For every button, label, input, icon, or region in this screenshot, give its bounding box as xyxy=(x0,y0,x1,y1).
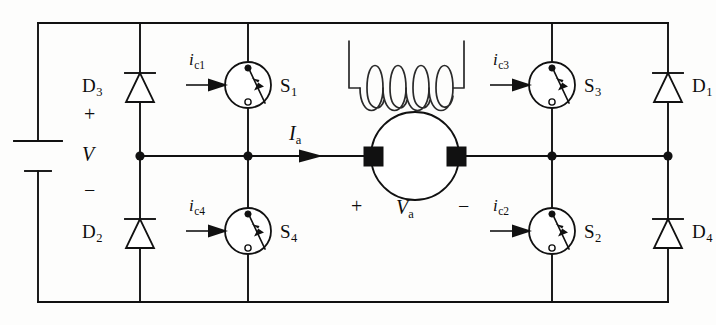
control-current-ic1-label: ic1 xyxy=(189,51,205,68)
armature-voltage-sub: a xyxy=(408,207,414,221)
diode-D2-label: D2 xyxy=(82,222,102,241)
armature-current-label: Ia xyxy=(289,123,301,143)
control-current-ic3-label: ic3 xyxy=(493,51,509,68)
armature-current-arrow xyxy=(299,150,323,163)
armature-voltage-label: Va xyxy=(396,197,414,217)
left-diode-branch xyxy=(125,23,155,302)
diode-D1-triangle xyxy=(654,73,682,102)
right-switch-branch xyxy=(529,23,575,302)
junction-dot-right-switch-mid xyxy=(547,151,556,160)
switch-S4-label-sub: 4 xyxy=(291,231,297,245)
diode-D4-label-text: D xyxy=(692,221,706,242)
diode-D1-symbol xyxy=(653,73,683,102)
motor-field-winding xyxy=(349,41,464,111)
field-winding-turn-3 xyxy=(406,66,430,111)
diode-D2-label-sub: 2 xyxy=(96,231,102,245)
field-winding-left-arm xyxy=(349,41,360,88)
diode-D1-label: D1 xyxy=(692,76,712,95)
switch-S3-label-text: S xyxy=(584,75,595,96)
dc-source-battery xyxy=(14,141,62,171)
source-plus-sign: + xyxy=(84,104,95,124)
right-diode-branch xyxy=(653,23,683,302)
armature-voltage-text: V xyxy=(396,196,408,218)
diode-D4-triangle xyxy=(654,219,682,248)
control-current-ic4-label: ic4 xyxy=(189,197,205,214)
switch-S4-label: S4 xyxy=(280,222,297,241)
diode-D2-triangle xyxy=(126,219,154,248)
diode-D3-label-text: D xyxy=(82,75,96,96)
field-winding-right-arm xyxy=(453,41,464,88)
armature-minus-sign: − xyxy=(458,196,469,216)
armature-plus-sign: + xyxy=(351,196,362,216)
armature-brush-right xyxy=(447,147,466,166)
junction-dot-left-switch-mid xyxy=(243,151,252,160)
armature-circle xyxy=(371,112,459,200)
field-winding-turn-1 xyxy=(360,66,384,111)
field-winding-turn-4 xyxy=(429,66,453,111)
switch-S4-gate-terminal xyxy=(245,245,251,251)
switch-S1-symbol[interactable] xyxy=(225,62,271,108)
switch-S4-label-text: S xyxy=(280,221,291,242)
diode-D1-label-text: D xyxy=(692,75,706,96)
switch-S3-label: S3 xyxy=(584,76,601,95)
switch-S2-symbol[interactable] xyxy=(529,208,575,254)
circuit-schematic-canvas xyxy=(0,0,716,325)
left-switch-branch xyxy=(225,23,271,302)
switch-S3-label-sub: 3 xyxy=(595,85,601,99)
switch-S2-label-text: S xyxy=(584,221,595,242)
junction-dot-right-mid xyxy=(663,151,672,160)
switch-S1-label-sub: 1 xyxy=(291,85,297,99)
switch-S1-label: S1 xyxy=(280,76,297,95)
motor-armature xyxy=(364,112,466,200)
diode-D3-symbol xyxy=(125,73,155,102)
source-voltage-label: V xyxy=(82,144,94,164)
armature-current-arrowhead xyxy=(299,150,323,163)
diode-D2-label-text: D xyxy=(82,221,96,242)
diode-D3-triangle xyxy=(126,73,154,102)
switch-S2-label-sub: 2 xyxy=(595,231,601,245)
switch-S2-gate-terminal xyxy=(549,245,555,251)
control-current-ic2-sub: c2 xyxy=(498,205,509,217)
power-rails xyxy=(38,23,668,302)
diode-D4-label: D4 xyxy=(692,222,712,241)
switch-S3-symbol[interactable] xyxy=(529,62,575,108)
switch-S1-label-text: S xyxy=(280,75,291,96)
switch-S3-gate-terminal xyxy=(549,99,555,105)
switch-S4-symbol[interactable] xyxy=(225,208,271,254)
diode-D3-label-sub: 3 xyxy=(96,85,102,99)
diode-D4-symbol xyxy=(653,219,683,248)
field-winding-turn-2 xyxy=(383,66,407,111)
junction-dot-left-mid xyxy=(135,151,144,160)
control-current-ic4-sub: c4 xyxy=(194,205,205,217)
armature-brush-left xyxy=(364,147,383,166)
diode-D4-label-sub: 4 xyxy=(706,231,712,245)
control-current-ic2-label: ic2 xyxy=(493,197,509,214)
diode-D3-label: D3 xyxy=(82,76,102,95)
control-current-ic1-sub: c1 xyxy=(194,59,205,71)
source-minus-sign: − xyxy=(84,180,95,200)
switch-S1-gate-terminal xyxy=(245,99,251,105)
control-current-ic3-sub: c3 xyxy=(498,59,509,71)
armature-current-sub: a xyxy=(296,133,302,147)
armature-current-text: I xyxy=(289,122,296,144)
diode-D2-symbol xyxy=(125,219,155,248)
circuit-diagram: + V − D3 D2 D1 D4 S1 S4 S3 S2 ic1 ic4 ic… xyxy=(0,0,716,325)
diode-D1-label-sub: 1 xyxy=(706,85,712,99)
switch-S2-label: S2 xyxy=(584,222,601,241)
